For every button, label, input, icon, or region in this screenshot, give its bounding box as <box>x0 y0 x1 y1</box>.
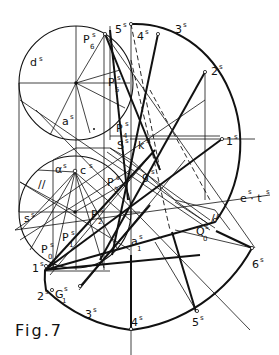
svg-text:P: P <box>107 176 114 189</box>
svg-text:s: s <box>125 120 129 128</box>
svg-text:s: s <box>260 256 264 264</box>
diagram-labels: ds as αs cs ss Ps6 Ps5 Ps4 Ps3 Ps2 Ps1 P… <box>0 0 279 355</box>
svg-text:6: 6 <box>252 258 259 271</box>
svg-text:s: s <box>93 306 97 314</box>
svg-text:s: s <box>89 162 93 170</box>
svg-text:s: s <box>100 206 104 214</box>
svg-text:s: s <box>50 241 54 249</box>
svg-text:s: s <box>139 314 143 322</box>
svg-text:s: s <box>183 21 187 29</box>
svg-text:s: s <box>125 137 129 145</box>
svg-text:s: s <box>45 288 49 296</box>
figure-caption: Fig.7 <box>15 321 63 340</box>
svg-text:S: S <box>117 139 124 152</box>
svg-text:P: P <box>108 76 115 89</box>
svg-text:s: s <box>63 162 67 170</box>
svg-text://: // <box>38 178 46 191</box>
svg-text:P: P <box>91 208 98 221</box>
svg-text://: // <box>211 212 219 225</box>
svg-text:P: P <box>62 231 69 244</box>
svg-text:3: 3 <box>85 308 92 321</box>
svg-text:1: 1 <box>137 245 141 253</box>
svg-text:a: a <box>62 115 69 128</box>
svg-text:4: 4 <box>131 316 138 329</box>
svg-text:s: s <box>200 314 204 322</box>
svg-text:2: 2 <box>37 290 44 303</box>
svg-text:3: 3 <box>175 23 182 36</box>
svg-text:P: P <box>83 33 90 46</box>
svg-text:c: c <box>80 164 86 177</box>
svg-text:5: 5 <box>115 86 119 94</box>
svg-text:s: s <box>139 233 143 241</box>
svg-text:s: s <box>145 28 149 36</box>
svg-text:s: s <box>39 55 43 63</box>
svg-text:s: s <box>24 212 30 225</box>
svg-text:5: 5 <box>192 316 199 329</box>
svg-text:0: 0 <box>203 235 207 243</box>
svg-text:s: s <box>146 137 150 145</box>
svg-text:P: P <box>41 243 48 256</box>
svg-text:s: s <box>123 21 127 29</box>
svg-text:s: s <box>31 211 35 219</box>
svg-text:s: s <box>117 74 121 82</box>
svg-text:5: 5 <box>115 23 122 36</box>
svg-text:s: s <box>92 31 96 39</box>
label-d: d <box>30 56 37 69</box>
svg-text:1: 1 <box>226 135 233 148</box>
svg-text:6: 6 <box>90 43 95 51</box>
svg-text:0: 0 <box>48 253 52 261</box>
svg-text:s: s <box>205 223 209 231</box>
svg-text:s: s <box>248 188 252 196</box>
svg-text:s: s <box>219 63 223 71</box>
svg-text:s: s <box>70 113 74 121</box>
svg-text:1: 1 <box>32 262 39 275</box>
svg-text:s: s <box>234 133 238 141</box>
svg-text:g: g <box>142 170 149 183</box>
svg-text:s: s <box>64 285 68 293</box>
svg-text:3: 3 <box>114 186 118 194</box>
svg-text:s: s <box>151 168 155 176</box>
svg-text:1: 1 <box>62 297 66 305</box>
svg-text:k: k <box>138 139 145 152</box>
svg-text:s: s <box>266 188 270 196</box>
svg-text:2: 2 <box>98 218 102 226</box>
svg-text:s: s <box>116 174 120 182</box>
svg-text:2: 2 <box>211 65 218 78</box>
svg-text:4: 4 <box>137 30 144 43</box>
svg-text:α: α <box>55 163 62 176</box>
svg-text:s: s <box>40 260 44 268</box>
svg-text:s: s <box>71 229 75 237</box>
svg-text:1: 1 <box>69 241 73 249</box>
svg-text:P: P <box>116 122 123 135</box>
